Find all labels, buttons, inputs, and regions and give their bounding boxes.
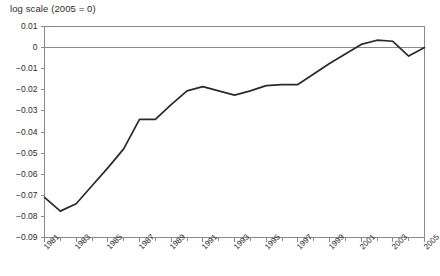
y-tick-label: −0.05 xyxy=(0,148,38,158)
y-tick-label: 0 xyxy=(0,42,38,52)
y-tick-label: −0.02 xyxy=(0,84,38,94)
chart-figure: log scale (2005 = 0) 1981198319851987198… xyxy=(0,0,440,276)
y-tick-label: −0.08 xyxy=(0,211,38,221)
y-tick-label: −0.04 xyxy=(0,127,38,137)
y-tick-label: −0.06 xyxy=(0,169,38,179)
series-line xyxy=(45,40,425,211)
y-tick-label: −0.07 xyxy=(0,190,38,200)
tick-marks xyxy=(41,27,425,242)
y-tick-label: 0.01 xyxy=(0,21,38,31)
y-tick-label: −0.03 xyxy=(0,105,38,115)
data-series xyxy=(45,40,425,211)
y-tick-label: −0.09 xyxy=(0,232,38,242)
line-chart-plot xyxy=(0,0,440,276)
axes-group xyxy=(45,27,425,238)
y-tick-label: −0.01 xyxy=(0,63,38,73)
